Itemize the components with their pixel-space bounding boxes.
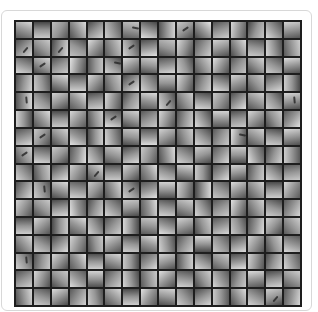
filter-patch: [105, 111, 121, 127]
filter-patch: [248, 93, 264, 109]
filter-patch: [34, 93, 50, 109]
filter-patch: [213, 58, 229, 74]
filter-patch: [34, 129, 50, 145]
filter-patch: [88, 254, 104, 270]
filter-patch: [141, 182, 157, 198]
filter-patch: [16, 236, 32, 252]
filter-patch: [213, 165, 229, 181]
filter-patch: [52, 236, 68, 252]
filter-patch: [88, 289, 104, 305]
filter-patch: [231, 58, 247, 74]
filter-patch: [34, 271, 50, 287]
filter-patch: [213, 111, 229, 127]
filter-patch: [34, 254, 50, 270]
filter-patch: [88, 147, 104, 163]
filter-patch: [52, 254, 68, 270]
edge-stroke: [25, 257, 28, 264]
filter-patch: [231, 75, 247, 91]
filter-patch: [34, 218, 50, 234]
edge-stroke: [110, 116, 117, 122]
filter-patch: [159, 182, 175, 198]
filter-patch: [213, 147, 229, 163]
filter-patch: [16, 218, 32, 234]
filter-patch: [34, 40, 50, 56]
filter-patch: [213, 22, 229, 38]
filter-patch: [141, 289, 157, 305]
filter-patch: [266, 289, 282, 305]
filter-patch: [213, 200, 229, 216]
filter-patch: [177, 22, 193, 38]
filter-patch: [105, 254, 121, 270]
edge-stroke: [58, 46, 64, 53]
filter-patch: [105, 93, 121, 109]
filter-patch: [284, 218, 300, 234]
filter-patch: [105, 129, 121, 145]
filter-patch: [248, 75, 264, 91]
filter-patch: [88, 129, 104, 145]
filter-patch: [231, 129, 247, 145]
filter-patch: [16, 271, 32, 287]
filter-patch: [52, 289, 68, 305]
filter-patch: [34, 111, 50, 127]
filter-patch: [52, 22, 68, 38]
filter-patch: [231, 218, 247, 234]
filter-patch: [141, 58, 157, 74]
filter-patch: [159, 218, 175, 234]
filter-patch: [105, 218, 121, 234]
filter-patch: [231, 111, 247, 127]
filter-patch: [141, 147, 157, 163]
filter-patch: [123, 254, 139, 270]
filter-patch: [159, 129, 175, 145]
filter-patch: [231, 182, 247, 198]
filter-patch: [141, 111, 157, 127]
filter-patch: [266, 111, 282, 127]
edge-stroke: [128, 187, 135, 193]
filter-patch: [195, 40, 211, 56]
filter-patch: [70, 40, 86, 56]
filter-grid: [14, 20, 302, 307]
filter-patch: [284, 165, 300, 181]
filter-patch: [16, 22, 32, 38]
filter-patch: [248, 271, 264, 287]
filter-patch: [34, 236, 50, 252]
filter-patch: [70, 289, 86, 305]
filter-patch: [159, 93, 175, 109]
filter-patch: [177, 236, 193, 252]
filter-patch: [284, 58, 300, 74]
edge-stroke: [39, 133, 46, 139]
filter-patch: [213, 289, 229, 305]
filter-patch: [231, 236, 247, 252]
filter-patch: [195, 147, 211, 163]
filter-patch: [16, 147, 32, 163]
filter-patch: [177, 93, 193, 109]
filter-patch: [141, 200, 157, 216]
filter-patch: [195, 58, 211, 74]
filter-patch: [16, 289, 32, 305]
filter-patch: [231, 271, 247, 287]
filter-patch: [213, 129, 229, 145]
filter-patch: [141, 40, 157, 56]
filter-patch: [105, 58, 121, 74]
filter-patch: [34, 147, 50, 163]
filter-patch: [52, 129, 68, 145]
filter-patch: [266, 93, 282, 109]
filter-patch: [70, 236, 86, 252]
filter-patch: [159, 58, 175, 74]
filter-patch: [52, 147, 68, 163]
filter-patch: [284, 147, 300, 163]
filter-patch: [123, 58, 139, 74]
filter-patch: [16, 75, 32, 91]
filter-patch: [88, 165, 104, 181]
filter-patch: [141, 271, 157, 287]
filter-patch: [105, 75, 121, 91]
filter-patch: [213, 271, 229, 287]
filter-patch: [284, 289, 300, 305]
edge-stroke: [39, 62, 46, 68]
filter-patch: [195, 165, 211, 181]
edge-stroke: [128, 80, 135, 86]
filter-patch: [159, 236, 175, 252]
filter-patch: [177, 182, 193, 198]
edge-stroke: [114, 62, 121, 65]
filter-patch: [34, 165, 50, 181]
filter-patch: [248, 129, 264, 145]
